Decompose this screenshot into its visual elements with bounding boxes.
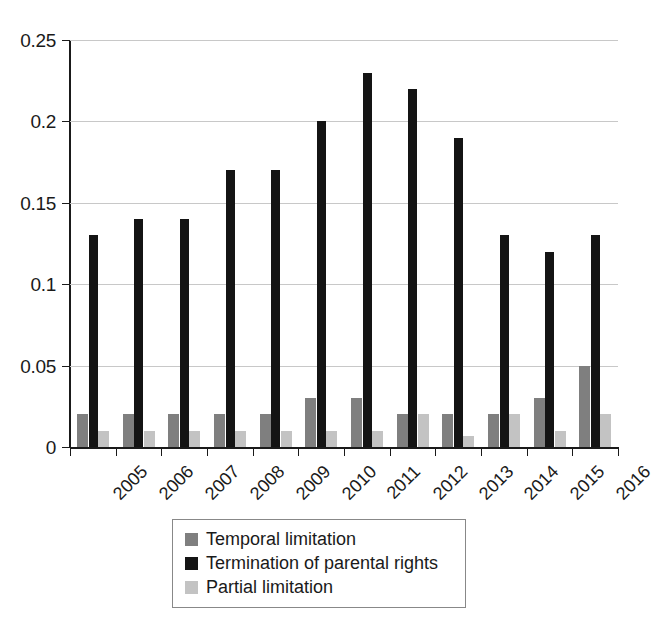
bar-group [572,40,618,447]
bar-group [344,40,390,447]
x-tick-mark [116,447,117,456]
bar [214,414,225,447]
bar [180,219,189,447]
bar [509,414,520,447]
bar [168,414,179,447]
legend-swatch-icon [185,581,198,594]
x-axis-tick-label: 2013 [475,462,516,503]
y-axis-tick-label: 0 [46,438,56,457]
y-tick-mark [62,203,70,204]
bar [372,431,383,447]
bar [134,219,143,447]
x-tick-mark [390,447,391,456]
bar [226,170,235,447]
chart-legend: Temporal limitation Termination of paren… [172,519,466,608]
x-axis-tick-label: 2016 [612,462,653,503]
plot-area [70,40,618,447]
x-axis-tick-label: 2006 [156,462,197,503]
bar [326,431,337,447]
bar [351,398,362,447]
y-axis-tick-label: 0.1 [30,275,56,294]
legend-item-label: Partial limitation [206,577,333,597]
y-axis-tick-label: 0.05 [20,357,56,376]
bar-group [207,40,253,447]
legend-item-termination-of-parental-rights: Termination of parental rights [185,551,455,575]
bar [397,414,408,447]
bar [418,414,429,447]
bar [600,414,611,447]
x-tick-mark [344,447,345,456]
x-axis-tick-label: 2014 [521,462,562,503]
bar [463,436,474,447]
legend-item-label: Termination of parental rights [206,553,438,573]
legend-item-label: Temporal limitation [206,529,356,549]
y-tick-mark [62,284,70,285]
bar [305,398,316,447]
y-axis-tick-label: 0.25 [20,31,56,50]
x-axis-tick-label: 2011 [384,462,424,502]
y-tick-mark [62,447,70,448]
bar-group [435,40,481,447]
legend-item-partial-limitation: Partial limitation [185,575,455,599]
legend-swatch-icon [185,557,198,570]
x-axis-tick-label: 2012 [430,462,471,503]
bar [271,170,280,447]
legend-item-temporal-limitation: Temporal limitation [185,527,455,551]
x-axis-tick-label: 2005 [110,462,151,503]
bar [454,138,463,447]
x-tick-mark [572,447,573,456]
bar-group [253,40,299,447]
x-tick-mark [298,447,299,456]
bar-group [481,40,527,447]
x-tick-mark [161,447,162,456]
bar [89,235,98,447]
y-tick-mark [62,366,70,367]
x-tick-mark [527,447,528,456]
bar [408,89,417,447]
y-tick-mark [62,121,70,122]
bar-group [161,40,207,447]
y-axis-tick-label: 0.15 [20,194,56,213]
bar-group [390,40,436,447]
x-axis-tick-label: 2007 [201,462,242,503]
bar [591,235,600,447]
x-axis-tick-label: 2008 [247,462,288,503]
x-axis-tick-label: 2015 [567,462,608,503]
bar [144,431,155,447]
x-tick-mark [618,447,619,456]
bar [189,431,200,447]
bar [317,121,326,447]
x-tick-mark [481,447,482,456]
bar [534,398,545,447]
bar [488,414,499,447]
bar [77,414,88,447]
bar [555,431,566,447]
bar [123,414,134,447]
x-tick-mark [70,447,71,456]
bar [442,414,453,447]
bar-group [70,40,116,447]
y-axis-tick-label: 0.2 [30,112,56,131]
bar-group [116,40,162,447]
bar-group [298,40,344,447]
legend-swatch-icon [185,533,198,546]
x-tick-mark [435,447,436,456]
bar [235,431,246,447]
x-axis-tick-label: 2009 [293,462,334,503]
x-tick-mark [207,447,208,456]
bar-group [527,40,573,447]
x-axis-tick-label: 2010 [338,462,379,503]
x-tick-mark [253,447,254,456]
y-tick-mark [62,40,70,41]
bar [500,235,509,447]
bar [98,431,109,447]
bar [579,366,590,447]
bar [545,252,554,447]
bar [281,431,292,447]
bar [363,73,372,447]
bar [260,414,271,447]
